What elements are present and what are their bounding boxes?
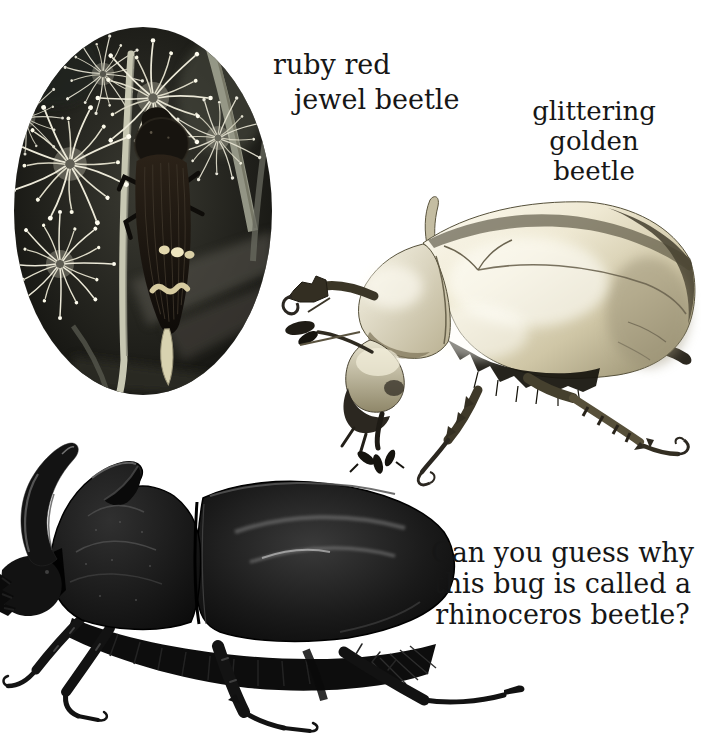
label-rhino-question: Can you guess why this bug is called a r… <box>424 537 701 630</box>
antenna <box>284 319 372 352</box>
label-line: ruby red <box>273 47 459 82</box>
label-line: this bug is called a <box>424 568 701 599</box>
hind-leg <box>528 378 688 454</box>
jewel-beetle-photo-svg <box>13 26 273 396</box>
label-line: glittering <box>516 96 672 126</box>
book-page: ruby red jewel beetle glittering golden … <box>0 0 701 744</box>
hind-leg <box>344 644 524 702</box>
label-line: beetle <box>516 156 672 186</box>
rear-shading <box>606 257 690 367</box>
head-eye-shadow <box>384 380 404 396</box>
front-leg-1 <box>4 618 83 686</box>
label-ruby-red-jewel-beetle: ruby red jewel beetle <box>273 47 459 117</box>
label-line: rhinoceros beetle? <box>424 599 701 630</box>
head-highlight <box>356 348 400 376</box>
jewel-beetle-photo <box>13 26 273 396</box>
label-line: jewel beetle <box>273 82 459 117</box>
rhino-elytra <box>197 481 455 641</box>
label-line: golden <box>516 126 672 156</box>
label-glittering-golden-beetle: glittering golden beetle <box>516 96 672 186</box>
label-line: Can you guess why <box>424 537 701 568</box>
eye-glint <box>45 570 49 574</box>
pronotum-highlight <box>363 265 423 309</box>
